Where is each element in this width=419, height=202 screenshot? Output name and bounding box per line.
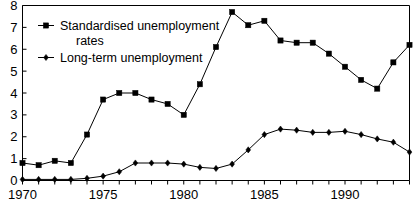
y-tick-label: 3 xyxy=(10,107,17,122)
x-tick-label: 1970 xyxy=(8,187,37,202)
data-point-marker xyxy=(43,23,48,28)
data-point-marker xyxy=(181,112,186,117)
y-tick-label: 8 xyxy=(10,0,17,13)
y-tick-label: 2 xyxy=(10,129,17,144)
data-point-marker xyxy=(310,40,315,45)
data-point-marker xyxy=(36,163,41,168)
data-point-marker xyxy=(197,82,202,87)
data-point-marker xyxy=(342,64,347,69)
data-point-marker xyxy=(84,132,89,137)
data-point-marker xyxy=(278,38,283,43)
data-point-marker xyxy=(149,97,154,102)
y-tick-label: 4 xyxy=(10,86,17,101)
legend-item-2[interactable]: Long-term unemployment xyxy=(38,51,203,65)
data-point-marker xyxy=(246,23,251,28)
data-point-marker xyxy=(359,77,364,82)
y-axis-tick-labels: 012345678 xyxy=(10,0,17,188)
y-tick-label: 6 xyxy=(10,42,17,57)
x-tick-label: 1975 xyxy=(89,187,118,202)
data-point-marker xyxy=(375,86,380,91)
data-point-marker xyxy=(68,160,73,165)
data-point-marker xyxy=(101,97,106,102)
x-tick-label: 1990 xyxy=(331,187,360,202)
data-point-marker xyxy=(230,9,235,14)
y-tick-label: 1 xyxy=(10,151,17,166)
data-point-marker xyxy=(262,18,267,23)
data-point-marker xyxy=(213,44,218,49)
data-point-marker xyxy=(165,101,170,106)
data-point-marker xyxy=(52,158,57,163)
chart-canvas: 012345678 19701975198019851990 Standardi… xyxy=(0,0,419,202)
legend-label: Standardised unemployment xyxy=(60,19,220,33)
legend-label-line2: rates xyxy=(76,34,104,48)
unemployment-line-chart: 012345678 19701975198019851990 Standardi… xyxy=(0,0,419,202)
data-point-marker xyxy=(407,42,412,47)
y-tick-label: 5 xyxy=(10,64,17,79)
y-tick-label: 7 xyxy=(10,20,17,35)
data-point-marker xyxy=(117,90,122,95)
data-point-marker xyxy=(133,90,138,95)
data-point-marker xyxy=(20,160,25,165)
data-point-marker xyxy=(326,51,331,56)
data-point-marker xyxy=(294,40,299,45)
x-tick-label: 1980 xyxy=(169,187,198,202)
legend-label: Long-term unemployment xyxy=(60,51,203,65)
x-tick-label: 1985 xyxy=(250,187,279,202)
data-point-marker xyxy=(391,60,396,65)
